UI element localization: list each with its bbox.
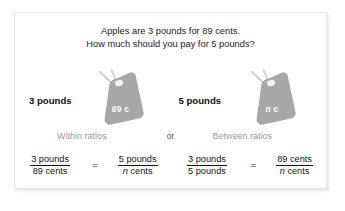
between-ratios-equation: 3 pounds 5 pounds = 89 cents n cents	[171, 153, 327, 177]
within-ratios-panel: 3 pounds 89 c Within ratios 3 pounds 89 …	[15, 13, 171, 188]
right-eq-operator: =	[250, 159, 256, 171]
lesson-card: Apples are 3 pounds for 89 cents. How mu…	[14, 12, 327, 189]
price-tag-right: n c	[249, 68, 305, 126]
right-eq-f2-denominator: n cents	[279, 165, 311, 176]
left-pounds-label: 3 pounds	[29, 95, 72, 106]
right-eq-f2-unit: cents	[287, 166, 309, 176]
left-eq-f2-unit: cents	[131, 166, 153, 176]
right-pounds-label: 5 pounds	[179, 95, 222, 106]
price-tag-left: 89 c	[97, 68, 153, 126]
right-eq-f2-variable: n	[280, 166, 285, 176]
right-eq-f1-denominator: 5 pounds	[187, 165, 227, 176]
left-eq-fraction-2: 5 pounds n cents	[105, 153, 171, 177]
between-ratios-panel: 5 pounds n c Between ratios 3 pounds 5 p…	[171, 13, 327, 188]
right-eq-fraction-1: 3 pounds 5 pounds	[171, 153, 244, 177]
within-ratios-equation: 3 pounds 89 cents = 5 pounds n cents	[15, 153, 171, 177]
right-ratio-caption: Between ratios	[213, 131, 273, 141]
price-tag-icon	[97, 68, 153, 126]
left-eq-f2-denominator: n cents	[122, 165, 154, 176]
left-eq-operator: =	[92, 159, 98, 171]
right-eq-fraction-2: 89 cents n cents	[263, 153, 326, 177]
price-tag-icon	[249, 68, 305, 126]
left-eq-f2-variable: n	[123, 166, 128, 176]
left-eq-fraction-1: 3 pounds 89 cents	[15, 153, 85, 177]
left-eq-f1-denominator: 89 cents	[32, 165, 69, 176]
